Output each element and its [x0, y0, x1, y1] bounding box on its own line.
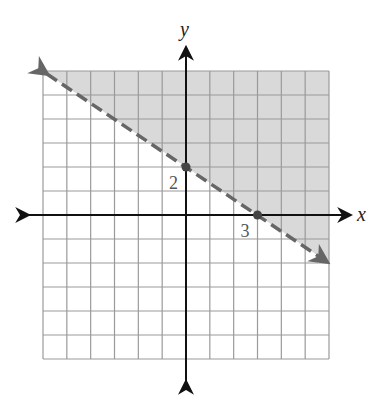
x-intercept-label: 3 — [241, 221, 250, 241]
inequality-graph: x y 2 3 — [0, 0, 374, 401]
intercept-point — [253, 211, 262, 220]
intercept-point — [182, 163, 191, 172]
y-intercept-label: 2 — [169, 173, 178, 193]
x-axis-label: x — [356, 203, 366, 225]
y-axis-label: y — [178, 18, 189, 41]
